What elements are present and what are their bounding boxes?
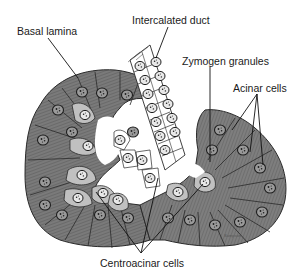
label-acinar-cells: Acinar cells — [233, 82, 287, 94]
label-zymogen-granules: Zymogen granules — [182, 55, 269, 67]
leader-basal-lamina — [48, 38, 78, 78]
intercalated-duct — [114, 45, 185, 188]
acinus-diagram — [0, 0, 295, 275]
label-basal-lamina: Basal lamina — [17, 25, 77, 37]
label-centroacinar-cells: Centroacinar cells — [100, 257, 184, 269]
artist-signature: Sampson — [224, 233, 241, 238]
label-intercalated-duct: Intercalated duct — [132, 14, 210, 26]
leader-intercalated-duct — [156, 27, 168, 58]
